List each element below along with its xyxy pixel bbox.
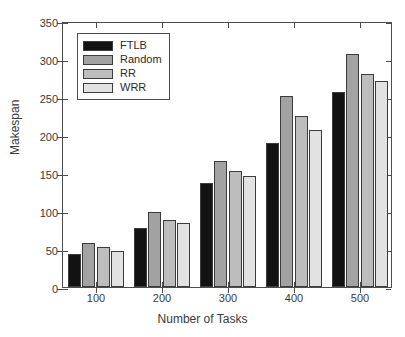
legend-swatch-random bbox=[83, 55, 113, 65]
bar-random-400 bbox=[280, 96, 293, 287]
x-tick-label: 100 bbox=[87, 293, 105, 304]
y-tick-label: 300 bbox=[40, 56, 58, 67]
legend-item-ftlb: FTLB bbox=[83, 39, 162, 52]
y-tick-label: 150 bbox=[40, 170, 58, 181]
bar-random-100 bbox=[82, 243, 95, 287]
legend-label-random: Random bbox=[120, 54, 162, 65]
legend-swatch-ftlb bbox=[83, 41, 113, 51]
legend-swatch-wrr bbox=[83, 83, 113, 93]
bar-ftlb-400 bbox=[266, 143, 279, 287]
y-axis-title: Makespan bbox=[8, 100, 22, 155]
y-tick-label: 0 bbox=[52, 284, 58, 295]
bar-rr-100 bbox=[97, 247, 110, 287]
y-tick-right bbox=[386, 61, 391, 62]
x-axis-title: Number of Tasks bbox=[0, 312, 405, 326]
y-tick-inner bbox=[63, 137, 68, 138]
bar-rr-500 bbox=[361, 74, 374, 287]
x-tick-top bbox=[228, 23, 229, 28]
legend-label-rr: RR bbox=[120, 68, 136, 79]
y-tick-label: 100 bbox=[40, 208, 58, 219]
bar-wrr-300 bbox=[243, 176, 256, 287]
y-tick-label: 250 bbox=[40, 94, 58, 105]
bar-rr-300 bbox=[229, 171, 242, 287]
y-tick-label: 50 bbox=[46, 246, 58, 257]
bar-ftlb-300 bbox=[200, 183, 213, 287]
x-tick-label: 200 bbox=[153, 293, 171, 304]
bar-ftlb-500 bbox=[332, 92, 345, 287]
y-tick-inner bbox=[63, 23, 68, 24]
y-tick-label: 200 bbox=[40, 132, 58, 143]
x-tick-top bbox=[294, 23, 295, 28]
y-tick-label: 350 bbox=[40, 18, 58, 29]
legend-item-random: Random bbox=[83, 53, 162, 66]
y-tick-inner bbox=[63, 61, 68, 62]
bar-wrr-500 bbox=[375, 81, 388, 287]
bar-rr-200 bbox=[163, 220, 176, 287]
legend-item-wrr: WRR bbox=[83, 81, 162, 94]
bar-rr-400 bbox=[295, 116, 308, 287]
bar-wrr-100 bbox=[111, 251, 124, 287]
bar-ftlb-100 bbox=[68, 254, 81, 287]
x-tick-label: 300 bbox=[219, 293, 237, 304]
x-tick-top bbox=[96, 23, 97, 28]
chart-legend: FTLBRandomRRWRR bbox=[77, 33, 170, 100]
y-tick-right bbox=[386, 289, 391, 290]
x-tick-label: 500 bbox=[351, 293, 369, 304]
x-tick-label: 400 bbox=[285, 293, 303, 304]
bar-ftlb-200 bbox=[134, 228, 147, 287]
plot-area: 050100150200250300350 100200300400500 FT… bbox=[62, 22, 392, 288]
legend-item-rr: RR bbox=[83, 67, 162, 80]
bar-random-200 bbox=[148, 212, 161, 287]
y-tick-inner bbox=[63, 175, 68, 176]
y-tick-inner bbox=[63, 251, 68, 252]
x-tick-top bbox=[162, 23, 163, 28]
y-tick-inner bbox=[63, 289, 68, 290]
y-tick-inner bbox=[63, 213, 68, 214]
bar-random-300 bbox=[214, 161, 227, 287]
y-tick-inner bbox=[63, 99, 68, 100]
legend-swatch-rr bbox=[83, 69, 113, 79]
bar-chart-figure: Makespan 050100150200250300350 100200300… bbox=[0, 0, 405, 337]
bar-wrr-400 bbox=[309, 130, 322, 287]
x-tick-top bbox=[360, 23, 361, 28]
bar-wrr-200 bbox=[177, 223, 190, 287]
legend-label-ftlb: FTLB bbox=[120, 40, 147, 51]
legend-label-wrr: WRR bbox=[120, 82, 146, 93]
bar-random-500 bbox=[346, 54, 359, 287]
y-tick-right bbox=[386, 23, 391, 24]
